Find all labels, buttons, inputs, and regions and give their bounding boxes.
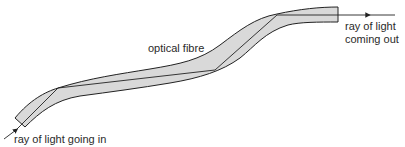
- optical-fibre-label: optical fibre: [148, 42, 204, 55]
- ray-out-label-line1: ray of light: [345, 20, 399, 33]
- ray-in-label: ray of light going in: [14, 133, 106, 146]
- ray-out-label-line2: coming out: [345, 33, 399, 46]
- ray-out-label: ray of light coming out: [345, 20, 399, 46]
- fibre-body: [15, 7, 338, 127]
